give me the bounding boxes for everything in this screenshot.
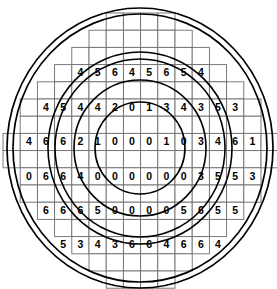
grid-cell <box>158 185 175 202</box>
cell-value: 0 <box>112 135 118 147</box>
cell-value: 4 <box>215 135 221 147</box>
grid-cell <box>37 82 54 99</box>
grid-cell <box>141 30 158 47</box>
grid-cell <box>227 185 244 202</box>
grid-cell <box>106 30 123 47</box>
grid-cell <box>123 30 140 47</box>
cell-value: 4 <box>43 101 49 113</box>
grid-cell <box>261 151 277 168</box>
cell-value: 6 <box>43 170 49 182</box>
cell-value: 3 <box>249 170 255 182</box>
grid-cell <box>261 133 277 150</box>
grid-cell <box>123 271 140 288</box>
cell-value: 3 <box>198 101 204 113</box>
grid-cell <box>209 65 226 82</box>
grid-cell <box>123 219 140 236</box>
cell-value: 6 <box>112 66 118 78</box>
cell-value: 0 <box>26 170 32 182</box>
cell-value: 3 <box>198 135 204 147</box>
cell-value: 6 <box>198 238 204 250</box>
grid-cell <box>244 185 261 202</box>
grid-cell <box>209 219 226 236</box>
grid-cell <box>123 47 140 64</box>
concentric-ring-grid-figure: 4564565445442013435346621000103461066400… <box>0 0 277 289</box>
grid-cell <box>123 82 140 99</box>
grid-cell <box>37 185 54 202</box>
cell-value: 2 <box>77 135 83 147</box>
cell-value: 6 <box>232 135 238 147</box>
grid-cell <box>106 185 123 202</box>
cell-value: 4 <box>181 101 187 113</box>
cell-value: 0 <box>129 170 135 182</box>
grid-cell <box>141 47 158 64</box>
cell-value: 1 <box>249 135 255 147</box>
cell-value: 6 <box>60 135 66 147</box>
cell-value: 5 <box>95 204 101 216</box>
grid-cell <box>175 254 192 271</box>
grid-cell <box>3 133 20 150</box>
cell-value: 4 <box>129 66 135 78</box>
cell-value: 1 <box>163 135 169 147</box>
grid-cell <box>192 116 209 133</box>
grid-cell <box>141 116 158 133</box>
grid-cell <box>123 254 140 271</box>
grid-cell <box>158 254 175 271</box>
cell-value: 0 <box>112 170 118 182</box>
cell-value: 0 <box>181 170 187 182</box>
grid-cell <box>141 82 158 99</box>
grid-cell <box>141 151 158 168</box>
cell-value: 3 <box>77 238 83 250</box>
cell-value: 0 <box>146 170 152 182</box>
grid-cell <box>175 30 192 47</box>
grid-cell <box>106 151 123 168</box>
cell-value: 3 <box>232 101 238 113</box>
grid-cell <box>89 30 106 47</box>
grid-cell <box>55 219 72 236</box>
cell-value: 5 <box>146 66 152 78</box>
grid-cell <box>227 151 244 168</box>
grid-cell <box>20 116 37 133</box>
grid-cell <box>244 116 261 133</box>
grid-cell <box>158 30 175 47</box>
cell-value: 5 <box>232 170 238 182</box>
grid-cell <box>158 116 175 133</box>
grid-cell <box>192 151 209 168</box>
cell-value: 6 <box>181 238 187 250</box>
cell-value: 5 <box>60 238 66 250</box>
cell-value: 4 <box>95 238 101 250</box>
grid-cell <box>227 82 244 99</box>
grid-cell <box>158 151 175 168</box>
cell-value: 0 <box>163 170 169 182</box>
grid-cell <box>192 82 209 99</box>
grid-cell <box>141 254 158 271</box>
grid-cell <box>72 47 89 64</box>
grid-cell <box>192 47 209 64</box>
cell-value: 5 <box>181 204 187 216</box>
cell-value: 5 <box>215 204 221 216</box>
grid-cell <box>141 271 158 288</box>
grid-cell <box>123 151 140 168</box>
cell-value: 4 <box>26 135 32 147</box>
grid-cell <box>192 219 209 236</box>
grid-cell <box>123 116 140 133</box>
cell-value: 0 <box>146 135 152 147</box>
grid-cell <box>106 254 123 271</box>
grid-cell <box>3 151 20 168</box>
grid-cell <box>106 116 123 133</box>
grid-cell <box>37 151 54 168</box>
grid-cell <box>175 47 192 64</box>
cell-value: 6 <box>163 66 169 78</box>
cell-value: 0 <box>95 170 101 182</box>
cell-value: 6 <box>60 204 66 216</box>
cell-value: 4 <box>95 101 101 113</box>
cell-value: 4 <box>77 101 83 113</box>
cell-value: 6 <box>43 204 49 216</box>
cell-value: 5 <box>232 204 238 216</box>
grid-cell <box>20 151 37 168</box>
grid-cell <box>244 151 261 168</box>
diagram-canvas: 4564565445442013435346621000103461066400… <box>0 0 277 289</box>
grid-cell <box>158 82 175 99</box>
cell-value: 0 <box>129 135 135 147</box>
grid-cell <box>141 219 158 236</box>
cell-value: 4 <box>215 238 221 250</box>
